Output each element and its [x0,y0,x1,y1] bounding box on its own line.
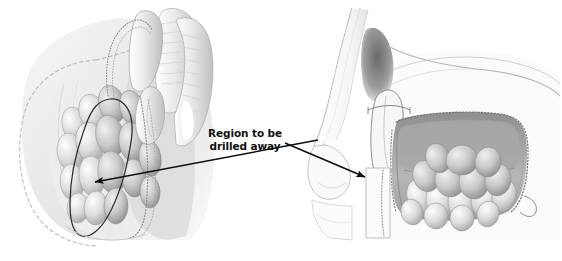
callout-label: Region to be drilled away [205,127,285,152]
right-panel-antrostomy-edge [366,168,390,238]
left-panel [20,9,214,247]
callout-label-line2: drilled away [205,140,285,153]
medical-illustration-figure: Region to be drilled away [0,0,562,261]
nasal-tip [308,145,350,199]
right-panel [308,8,560,240]
callout-label-line1: Region to be [205,127,285,140]
upper-lip-profile [312,200,352,240]
